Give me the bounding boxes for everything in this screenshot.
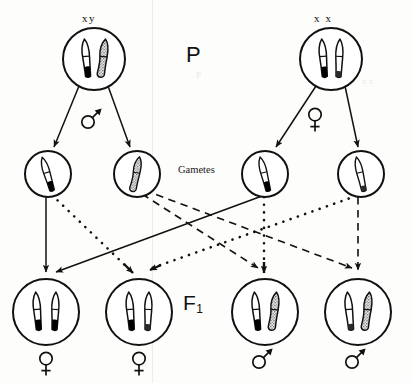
genotype-label-father: xy [82,12,96,24]
fertilization-dotted-heads [124,262,264,273]
cell-father [63,28,125,90]
fertilization-dotted-group [52,195,356,270]
cell-f1-2 [106,279,172,345]
arrow-gamete2-to-f1-3 [142,194,258,268]
cell-gamete-2 [114,151,160,197]
cell-f1-4 [325,279,391,345]
genotype-label-mother: x x [314,12,333,24]
meiosis-arrow-group [54,86,358,147]
fertilization-dashed-group [142,190,358,270]
diagram-canvas [0,0,411,383]
arrow-mother-to-gamete-3 [276,86,316,147]
male-symbol-f1-4 [346,348,366,368]
cell-membrane-f1-1 [13,279,79,345]
scan-artifact-p: P [196,70,201,80]
arrow-mother-to-gamete-4 [345,86,358,147]
cell-membrane-f1-4 [325,279,391,345]
cell-membrane-f1-2 [106,279,172,345]
cell-f1-3 [232,279,298,345]
genetics-sex-determination-diagram: xy x x P Gametes F1 P x x [0,0,411,383]
cell-gamete-3 [242,151,288,197]
arrow-father-to-gamete-2 [108,86,130,147]
female-symbol-f1-2 [133,352,145,375]
male-symbol-father [82,108,102,128]
fertilization-solid-group [46,196,262,272]
scan-artifact-xx: x x [362,76,373,86]
male-symbol-f1-3 [253,348,273,368]
cell-f1-1 [13,279,79,345]
female-symbol-f1-1 [40,352,52,375]
cell-mother [300,28,362,90]
arrow-father-to-gamete-1 [54,86,79,147]
gametes-row-label: Gametes [178,164,215,175]
cell-membrane-f1-3 [232,279,298,345]
f1-subscript: 1 [196,302,203,316]
f1-generation-label: F1 [183,291,203,315]
cell-gamete-4 [338,151,384,197]
arrowhead-gamete1-to-f1-2 [124,264,133,273]
female-symbol-mother [309,108,321,131]
parental-generation-label: P [186,42,201,68]
f1-letter: F [183,291,196,314]
cell-gamete-1 [25,151,71,197]
cell-membrane-mother [300,28,362,90]
cell-membrane-father [63,28,125,90]
arrow-gamete3-to-f1-1 [56,196,262,272]
